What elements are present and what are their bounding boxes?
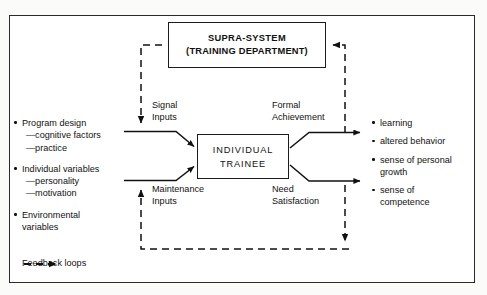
bullet-dot-icon [14, 213, 17, 216]
list-item-label: sense of competence [372, 184, 482, 209]
list-item: sense of competence [372, 184, 482, 209]
list-subitem-label: —personality [14, 175, 132, 187]
bullet-dot-icon [372, 121, 375, 124]
list-spacer [14, 200, 132, 209]
bullet-dot-icon [14, 121, 17, 124]
list-subitem-label: —cognitive factors [14, 129, 132, 141]
list-spacer [14, 154, 132, 163]
bullet-dot-icon [372, 189, 375, 192]
supra-system-title: SUPRA-SYSTEM [208, 32, 286, 45]
list-item: Program design—cognitive factors—practic… [14, 117, 132, 154]
list-item: altered behavior [372, 135, 482, 147]
legend-label: Feedback loops [22, 258, 86, 269]
label-maintenance-inputs: Maintenance Inputs [152, 184, 204, 207]
label-signal-inputs: Signal Inputs [152, 100, 177, 123]
label-formal-achievement: Formal Achievement [272, 100, 325, 123]
figure-canvas: SUPRA-SYSTEM (TRAINING DEPARTMENT) INDIV… [0, 0, 487, 295]
supra-system-node: SUPRA-SYSTEM (TRAINING DEPARTMENT) [168, 22, 326, 68]
individual-trainee-title-line2: TRAINEE [220, 157, 266, 171]
output-outcomes-list: learningaltered behaviorsense of persona… [372, 117, 482, 209]
list-item: Environmental variables [14, 209, 132, 234]
bullet-dot-icon [372, 158, 375, 161]
list-item-label: learning [372, 117, 482, 129]
individual-trainee-title-line1: INDIVIDUAL [213, 143, 274, 157]
list-item: learning [372, 117, 482, 129]
list-item-label: Environmental variables [14, 209, 132, 234]
individual-trainee-node: INDIVIDUAL TRAINEE [197, 134, 289, 179]
list-subitem-label: —motivation [14, 187, 132, 199]
list-subitem-label: —practice [14, 142, 132, 154]
list-item: Individual variables—personality—motivat… [14, 163, 132, 200]
list-item-label: Program design [14, 117, 132, 129]
input-factors-list: Program design—cognitive factors—practic… [14, 117, 132, 233]
label-need-satisfaction: Need Satisfaction [272, 184, 319, 207]
legend: Feedback loops [22, 258, 86, 269]
bullet-dot-icon [14, 167, 17, 170]
bullet-dot-icon [372, 140, 375, 143]
list-item-label: sense of personal growth [372, 154, 482, 179]
list-item-label: Individual variables [14, 163, 132, 175]
list-item-label: altered behavior [372, 135, 482, 147]
supra-system-subtitle: (TRAINING DEPARTMENT) [186, 45, 308, 58]
list-item: sense of personal growth [372, 154, 482, 179]
